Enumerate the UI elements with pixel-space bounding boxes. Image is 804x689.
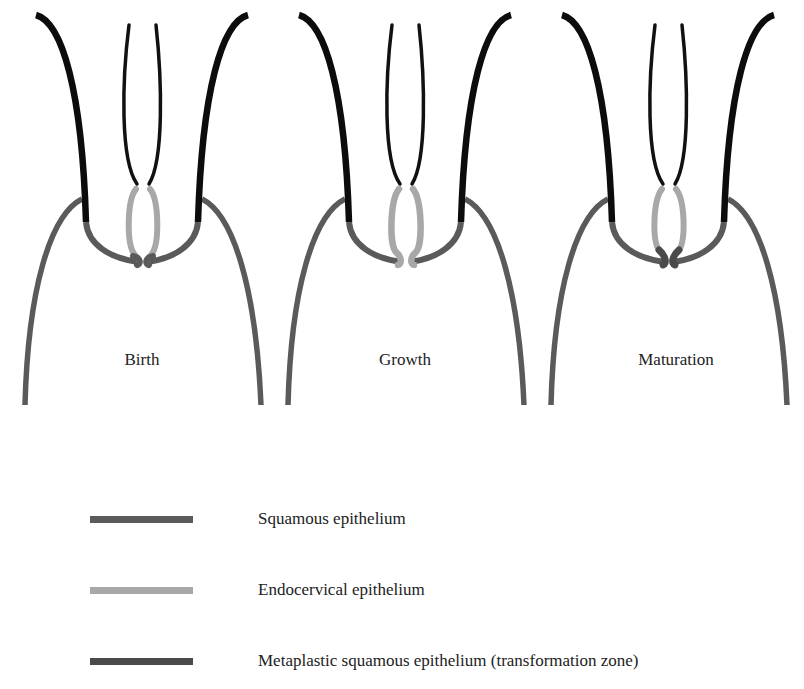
legend-item-squamous: Squamous epithelium <box>90 507 193 531</box>
legend-label: Endocervical epithelium <box>258 580 425 600</box>
endocervical-left <box>391 189 400 265</box>
endocervical-right <box>676 189 684 250</box>
panel-label-maturation: Maturation <box>576 350 776 370</box>
metaplastic-swatch <box>90 658 193 665</box>
legend-label: Squamous epithelium <box>258 509 406 529</box>
panel-maturation <box>551 15 787 405</box>
panel-label-birth: Birth <box>42 350 242 370</box>
legend-label: Metaplastic squamous epithelium (transfo… <box>258 651 639 671</box>
endocervical-left <box>654 189 662 250</box>
endocervical-right <box>411 189 420 265</box>
legend-item-metaplastic: Metaplastic squamous epithelium (transfo… <box>90 649 193 673</box>
legend-item-endocervical: Endocervical epithelium <box>90 578 193 602</box>
panel-birth <box>25 15 261 405</box>
panel-label-growth: Growth <box>305 350 505 370</box>
panel-growth <box>288 15 524 405</box>
endocervical-swatch <box>90 587 193 594</box>
squamous-swatch <box>90 516 193 523</box>
